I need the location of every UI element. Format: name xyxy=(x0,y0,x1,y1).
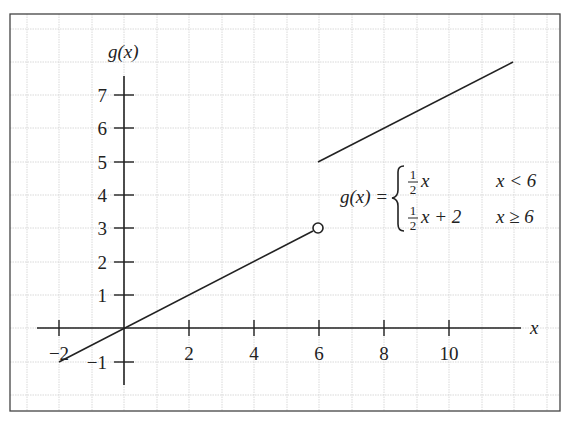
series-line-2 xyxy=(318,62,513,162)
axes xyxy=(37,76,521,385)
piece1-expression: x xyxy=(420,170,430,191)
y-tick-label: 7 xyxy=(98,85,108,106)
y-tick-label: 6 xyxy=(98,118,108,139)
open-circle-endpoint xyxy=(313,223,323,233)
y-tick-label: 3 xyxy=(98,218,108,239)
piece1-condition: x < 6 xyxy=(495,170,537,191)
x-tick-label: −2 xyxy=(49,343,69,364)
y-tick-labels: 7 6 5 4 3 2 1 −1 xyxy=(87,85,108,373)
y-tick-label: 2 xyxy=(98,252,108,273)
annotation-lhs: g(x) = xyxy=(340,186,388,208)
frac-numerator: 1 xyxy=(410,203,417,218)
piece2-expression: x + 2 xyxy=(420,206,462,227)
y-tick-label: −1 xyxy=(87,352,107,373)
piecewise-function-chart: −2 2 4 6 8 10 7 6 5 4 3 2 1 −1 g(x) x g(… xyxy=(0,0,568,425)
y-tick-label: 1 xyxy=(98,285,108,306)
frac-numerator: 1 xyxy=(410,167,417,182)
x-axis-label: x xyxy=(529,317,539,338)
x-tick-label: 2 xyxy=(184,343,194,364)
piece2-condition: x ≥ 6 xyxy=(495,206,534,227)
y-tick-label: 4 xyxy=(98,185,108,206)
y-tick-label: 5 xyxy=(98,152,108,173)
x-tick-label: 4 xyxy=(249,343,259,364)
y-axis-label: g(x) xyxy=(108,41,139,63)
x-tick-label: 10 xyxy=(440,343,459,364)
frac-denominator: 2 xyxy=(410,182,417,197)
frac-denominator: 2 xyxy=(410,218,417,233)
x-tick-label: 6 xyxy=(314,343,324,364)
left-brace xyxy=(392,166,404,231)
piecewise-annotation: g(x) = 1 2 x x < 6 1 2 x + 2 x ≥ 6 xyxy=(340,166,537,233)
x-tick-labels: −2 2 4 6 8 10 xyxy=(49,343,459,364)
x-tick-label: 8 xyxy=(379,343,389,364)
